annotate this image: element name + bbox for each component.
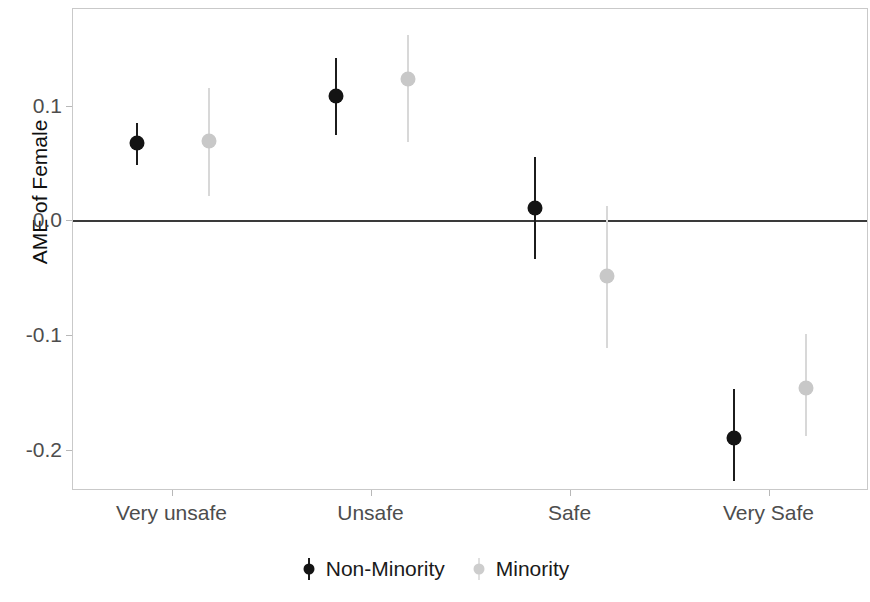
- chart-legend: Non-MinorityMinority: [0, 556, 870, 582]
- data-point: [201, 133, 216, 148]
- x-axis-tick-mark: [570, 490, 571, 496]
- data-point: [129, 136, 144, 151]
- legend-label: Non-Minority: [326, 557, 445, 581]
- data-point: [328, 89, 343, 104]
- x-axis-tick-mark: [769, 490, 770, 496]
- x-axis-tick-mark: [371, 490, 372, 496]
- x-axis-tick-mark: [172, 490, 173, 496]
- legend-item-nonminority: Non-Minority: [301, 556, 445, 582]
- data-point: [798, 380, 813, 395]
- data-point: [599, 269, 614, 284]
- y-axis-tick-label: -0.2: [0, 438, 62, 462]
- data-point: [527, 200, 542, 215]
- zero-reference-line: [73, 220, 867, 222]
- data-point: [400, 72, 415, 87]
- legend-marker-icon: [301, 556, 317, 582]
- y-axis-tick-label: 0.0: [0, 208, 62, 232]
- x-axis-tick-label: Very Safe: [723, 501, 814, 525]
- data-point: [726, 431, 741, 446]
- error-bar: [407, 35, 409, 142]
- x-axis-tick-label: Safe: [548, 501, 591, 525]
- x-axis-tick-label: Unsafe: [337, 501, 404, 525]
- y-axis-tick-label: -0.1: [0, 323, 62, 347]
- legend-label: Minority: [496, 557, 570, 581]
- x-axis-tick-label: Very unsafe: [116, 501, 227, 525]
- plot-panel: [72, 8, 868, 490]
- legend-marker-icon: [471, 556, 487, 582]
- legend-item-minority: Minority: [471, 556, 570, 582]
- y-axis-tick-label: 0.1: [0, 94, 62, 118]
- forest-plot-figure: AME of Female 0.10.0-0.1-0.2 Very unsafe…: [0, 0, 870, 602]
